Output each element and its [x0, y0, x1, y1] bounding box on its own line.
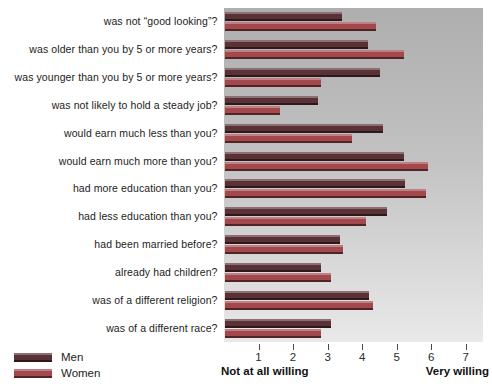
women-bar: [225, 301, 373, 310]
x-axis-min-label: Not at all willing: [221, 365, 309, 377]
men-bar: [225, 319, 332, 328]
chart-row: was not likely to hold a steady job?: [0, 91, 483, 119]
x-tick-label: 1: [255, 351, 261, 363]
rows: was not “good looking”?was older than yo…: [0, 8, 483, 342]
bar-group: [225, 64, 483, 92]
men-bar: [225, 96, 318, 105]
chart-row: would earn much more than you?: [0, 147, 483, 175]
women-bar: [225, 22, 377, 31]
bar-group: [225, 258, 483, 286]
women-color-swatch: [14, 369, 52, 378]
x-tick-label: 5: [393, 351, 399, 363]
category-label: would earn much less than you?: [0, 128, 225, 139]
x-tick-label: 6: [428, 351, 434, 363]
x-tick-label: 4: [359, 351, 365, 363]
x-tick: [466, 344, 467, 350]
women-bar: [225, 189, 427, 198]
women-bar: [225, 273, 332, 282]
willingness-to-marry-chart: was not “good looking”?was older than yo…: [0, 0, 492, 392]
bar-group: [225, 119, 483, 147]
chart-row: was of a different religion?: [0, 286, 483, 314]
chart-row: would earn much less than you?: [0, 119, 483, 147]
chart-row: was younger than you by 5 or more years?: [0, 64, 483, 92]
category-label: had less education than you?: [0, 211, 225, 222]
chart-row: had been married before?: [0, 231, 483, 259]
legend-entry-men: Men: [14, 351, 100, 363]
legend-entry-women: Women: [14, 367, 100, 379]
category-label: was younger than you by 5 or more years?: [0, 72, 225, 83]
women-bar: [225, 245, 344, 254]
men-bar: [225, 124, 384, 133]
category-label: was not likely to hold a steady job?: [0, 100, 225, 111]
x-tick-label: 3: [324, 351, 330, 363]
men-bar: [225, 207, 387, 216]
bar-group: [225, 175, 483, 203]
bar-group: [225, 231, 483, 259]
x-tick-label: 2: [290, 351, 296, 363]
bar-group: [225, 203, 483, 231]
men-bar: [225, 68, 380, 77]
men-bar: [225, 12, 342, 21]
chart-row: had less education than you?: [0, 203, 483, 231]
women-bar: [225, 134, 353, 143]
bar-group: [225, 147, 483, 175]
men-bar: [225, 291, 370, 300]
category-label: had more education than you?: [0, 183, 225, 194]
chart-row: was older than you by 5 or more years?: [0, 36, 483, 64]
men-bar: [225, 40, 368, 49]
category-label: already had children?: [0, 267, 225, 278]
x-tick: [362, 344, 363, 350]
chart-row: was not “good looking”?: [0, 8, 483, 36]
chart-row: had more education than you?: [0, 175, 483, 203]
women-bar: [225, 106, 280, 115]
x-tick-label: 7: [463, 351, 469, 363]
x-tick: [397, 344, 398, 350]
men-bar: [225, 263, 321, 272]
category-label: was of a different religion?: [0, 295, 225, 306]
category-label: was older than you by 5 or more years?: [0, 44, 225, 55]
bar-group: [225, 314, 483, 342]
men-bar: [225, 235, 340, 244]
legend: Men Women: [14, 351, 100, 379]
x-axis-max-label: Very willing: [426, 365, 489, 377]
men-bar: [225, 152, 404, 161]
women-bar: [225, 217, 366, 226]
category-label: was of a different race?: [0, 323, 225, 334]
chart-row: already had children?: [0, 258, 483, 286]
category-label: was not “good looking”?: [0, 16, 225, 27]
legend-label-men: Men: [61, 351, 83, 363]
men-bar: [225, 179, 406, 188]
category-label: would earn much more than you?: [0, 156, 225, 167]
men-color-swatch: [14, 353, 52, 362]
women-bar: [225, 162, 428, 171]
women-bar: [225, 50, 404, 59]
x-tick: [259, 344, 260, 350]
category-label: had been married before?: [0, 239, 225, 250]
chart-row: was of a different race?: [0, 314, 483, 342]
x-tick: [431, 344, 432, 350]
bar-group: [225, 91, 483, 119]
women-bar: [225, 78, 321, 87]
bar-group: [225, 36, 483, 64]
women-bar: [225, 329, 321, 338]
bar-group: [225, 8, 483, 36]
legend-label-women: Women: [61, 367, 100, 379]
x-tick: [293, 344, 294, 350]
x-tick: [328, 344, 329, 350]
bar-group: [225, 286, 483, 314]
